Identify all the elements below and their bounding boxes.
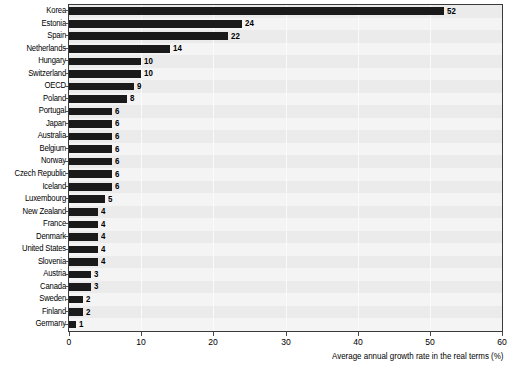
bar-row: 4 [69,206,502,219]
bar [69,133,112,141]
category-label: Poland [5,92,66,105]
bar-row: 6 [69,143,502,156]
bar-row: 22 [69,30,502,43]
bar-value-label: 6 [115,169,119,181]
bar [69,283,91,291]
bar-value-label: 14 [173,43,182,55]
bar-row: 2 [69,306,502,319]
bar-chart: KoreaEstoniaSpainNetherlandsHungarySwitz… [0,0,511,368]
bar [69,158,112,166]
value-axis: Average annual growth rate in the real t… [0,332,511,368]
bar-value-label: 2 [86,294,90,306]
bar-value-label: 4 [101,206,105,218]
category-label: Belgium [5,142,66,155]
bar-value-label: 3 [94,281,98,293]
category-label: Iceland [5,180,66,193]
x-axis-title: Average annual growth rate in the real t… [332,351,503,362]
bar-value-label: 6 [115,131,119,143]
x-axis-tick-label: 40 [339,337,377,348]
category-label: France [5,217,66,230]
bar-row: 4 [69,231,502,244]
bar-value-label: 4 [101,219,105,231]
bar [69,233,98,241]
category-label: Germany [5,317,66,330]
category-label: Slovenia [5,255,66,268]
bar-row: 5 [69,193,502,206]
bar [69,120,112,128]
category-label: Japan [5,117,66,130]
bar-value-label: 10 [144,56,153,68]
x-axis-tick [213,332,214,336]
bar-row: 6 [69,130,502,143]
bar [69,45,170,53]
bar-row: 6 [69,168,502,181]
bar-row: 3 [69,281,502,294]
bar-row: 10 [69,68,502,81]
category-label: Finland [5,305,66,318]
bar-value-label: 22 [231,31,240,43]
x-axis-tick-label: 60 [483,337,511,348]
bar [69,271,91,279]
bar-row: 6 [69,105,502,118]
bar-value-label: 2 [86,307,90,319]
bar-value-label: 52 [447,6,456,18]
bar-row: 4 [69,218,502,231]
x-axis-tick [358,332,359,336]
category-label: Netherlands [5,42,66,55]
bar-row: 3 [69,268,502,281]
bar-row: 6 [69,181,502,194]
bar [69,258,98,266]
bar-value-label: 6 [115,181,119,193]
bar-value-label: 4 [101,256,105,268]
bar-row: 10 [69,55,502,68]
bar-row: 9 [69,80,502,93]
bar-row: 4 [69,243,502,256]
category-label: Luxembourg [5,192,66,205]
bar-value-label: 3 [94,269,98,281]
bar-row: 8 [69,93,502,106]
bar [69,208,98,216]
x-axis-tick-label: 20 [194,337,232,348]
bar-row: 14 [69,43,502,56]
category-label: Norway [5,154,66,167]
bar [69,296,83,304]
bar-row: 24 [69,18,502,31]
x-axis-tick-label: 50 [411,337,449,348]
x-axis-tick [430,332,431,336]
bar-value-label: 5 [108,194,112,206]
bar [69,183,112,191]
bar [69,108,112,116]
bar-row: 6 [69,118,502,131]
bar [69,321,76,329]
category-label: New Zealand [5,205,66,218]
category-label: Portugal [5,104,66,117]
x-axis-tick-label: 10 [122,337,160,348]
x-axis-tick [502,332,503,336]
category-label: United States [5,242,66,255]
bar [69,83,134,91]
bar [69,308,83,316]
bar [69,195,105,203]
x-axis-tick [286,332,287,336]
bar-row: 4 [69,256,502,269]
bar-value-label: 10 [144,68,153,80]
x-axis-tick [69,332,70,336]
bar [69,70,141,78]
bar [69,7,444,15]
bar-value-label: 6 [115,118,119,130]
bar [69,145,112,153]
category-axis: KoreaEstoniaSpainNetherlandsHungarySwitz… [0,4,66,332]
bar [69,20,242,28]
plot-area: 52242214101098666666654444433221 [68,4,503,332]
bar-value-label: 8 [130,93,134,105]
bar-value-label: 4 [101,231,105,243]
bar [69,32,228,40]
bar-series: 52242214101098666666654444433221 [69,5,502,331]
category-label: Austria [5,267,66,280]
category-label: Spain [5,29,66,42]
x-axis-tick [141,332,142,336]
x-axis-tick-label: 30 [267,337,305,348]
bar [69,58,141,66]
bar-value-label: 6 [115,144,119,156]
bar [69,95,127,103]
